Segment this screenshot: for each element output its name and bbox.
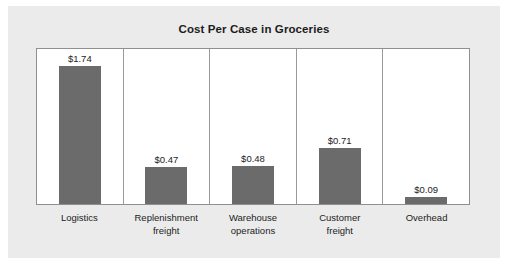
x-axis-label-line1: Replenishment bbox=[135, 212, 198, 223]
bar-group: $0.48 bbox=[210, 49, 296, 204]
bar-group: $0.47 bbox=[124, 49, 210, 204]
x-axis-label-customer-freight: Customer freight bbox=[296, 207, 383, 247]
x-axis-label-line1: Warehouse bbox=[229, 212, 277, 223]
bar-panel-replenishment-freight: $0.47 bbox=[124, 49, 211, 204]
bar-panel-customer-freight: $0.71 bbox=[297, 49, 384, 204]
x-axis-label-overhead: Overhead bbox=[383, 207, 470, 247]
chart-card: Cost Per Case in Groceries $1.74 $0.47 $… bbox=[8, 6, 500, 258]
x-axis-label-line2: freight bbox=[123, 225, 210, 238]
x-axis-label-replenishment-freight: Replenishment freight bbox=[123, 207, 210, 247]
x-axis-label-line2: operations bbox=[210, 225, 297, 238]
plot-area: $1.74 $0.47 $0.48 $0.71 $0.09 bbox=[36, 48, 470, 205]
bar-panel-logistics: $1.74 bbox=[37, 49, 124, 204]
x-axis-label-logistics: Logistics bbox=[36, 207, 123, 247]
x-axis-label-line2: freight bbox=[296, 225, 383, 238]
bar-group: $0.71 bbox=[297, 49, 383, 204]
bar-overhead bbox=[405, 197, 447, 204]
x-axis-labels: Logistics Replenishment freight Warehous… bbox=[36, 207, 470, 247]
bar-group: $0.09 bbox=[383, 49, 469, 204]
bar-group: $1.74 bbox=[37, 49, 123, 204]
bar-panel-overhead: $0.09 bbox=[383, 49, 469, 204]
bar-logistics bbox=[59, 66, 101, 204]
bar-customer-freight bbox=[319, 148, 361, 204]
bar-panel-warehouse-operations: $0.48 bbox=[210, 49, 297, 204]
bar-value-label: $0.09 bbox=[414, 184, 438, 195]
bar-value-label: $0.48 bbox=[241, 153, 265, 164]
bar-value-label: $1.74 bbox=[68, 53, 92, 64]
chart-title: Cost Per Case in Groceries bbox=[8, 23, 500, 35]
x-axis-label-line1: Overhead bbox=[406, 212, 448, 223]
x-axis-label-line1: Logistics bbox=[61, 212, 98, 223]
x-axis-label-warehouse-operations: Warehouse operations bbox=[210, 207, 297, 247]
bar-warehouse-operations bbox=[232, 166, 274, 204]
bar-value-label: $0.47 bbox=[155, 154, 179, 165]
bar-replenishment-freight bbox=[145, 167, 187, 204]
x-axis-label-line1: Customer bbox=[319, 212, 360, 223]
bar-value-label: $0.71 bbox=[328, 135, 352, 146]
